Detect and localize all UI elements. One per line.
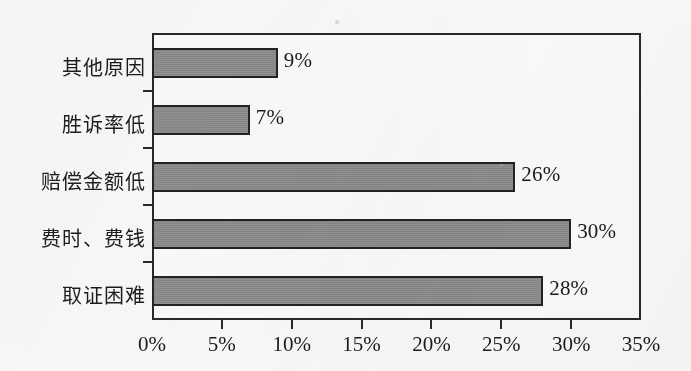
bar-chart: 9% 7% 26% 30% 28% 其他原因 胜诉率低 赔偿金额低 费时、费钱 …	[0, 0, 691, 371]
x-axis-label-30: 30%	[552, 332, 591, 357]
x-axis-label-25: 25%	[482, 332, 521, 357]
y-axis-tick-4	[143, 261, 152, 263]
x-axis-label-35: 35%	[622, 332, 661, 357]
x-axis-label-5: 5%	[208, 332, 236, 357]
bar-evidence-difficulty	[152, 276, 543, 306]
value-label-low-win-rate: 7%	[256, 105, 284, 130]
bar-other-reasons	[152, 48, 278, 78]
value-label-low-compensation: 26%	[521, 162, 560, 187]
y-axis-tick-3	[143, 204, 152, 206]
y-axis-tick-1	[143, 90, 152, 92]
value-label-time-and-money: 30%	[577, 219, 616, 244]
category-label-low-compensation: 赔偿金额低	[8, 166, 146, 195]
category-label-low-win-rate: 胜诉率低	[8, 109, 146, 138]
x-axis-tick-5	[570, 320, 572, 329]
x-axis-tick-1	[291, 320, 293, 329]
x-axis-label-0: 0%	[138, 332, 166, 357]
scan-speck	[335, 20, 339, 24]
value-label-evidence-difficulty: 28%	[549, 276, 588, 301]
x-axis-label-20: 20%	[412, 332, 451, 357]
x-axis-label-10: 10%	[272, 332, 311, 357]
scan-speck	[500, 164, 503, 166]
category-label-evidence-difficulty: 取证困难	[8, 280, 146, 309]
x-axis-tick-0	[221, 320, 223, 329]
x-axis-label-15: 15%	[342, 332, 381, 357]
value-label-other-reasons: 9%	[284, 48, 312, 73]
bar-low-win-rate	[152, 105, 250, 135]
category-label-time-and-money: 费时、费钱	[8, 223, 146, 252]
x-axis-tick-2	[361, 320, 363, 329]
y-axis-tick-2	[143, 147, 152, 149]
x-axis-tick-3	[430, 320, 432, 329]
category-label-other-reasons: 其他原因	[8, 52, 146, 81]
x-axis-tick-4	[500, 320, 502, 329]
bar-low-compensation	[152, 162, 515, 192]
bar-time-and-money	[152, 219, 571, 249]
